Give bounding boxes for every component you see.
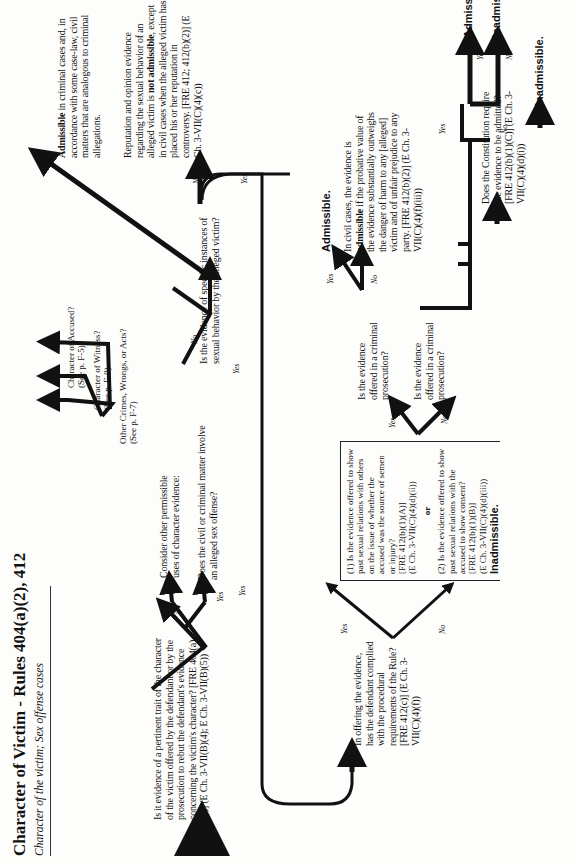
- outcome-admissible-criminal: Admissible in criminal cases and, in acc…: [56, 0, 102, 158]
- box-question-2: (2) Is the evidence offered to show past…: [436, 448, 488, 574]
- branch-label-yes: Yes: [438, 124, 447, 134]
- branch-label-yes: Yes: [216, 592, 225, 602]
- question-specific-instances: Is the evidence of specific instances of…: [198, 199, 221, 364]
- other-use-ref[interactable]: (See p. F-5): [76, 268, 86, 388]
- branch-label-yes: Yes: [340, 624, 349, 634]
- branch-label-yes: Yes: [476, 50, 485, 60]
- branch-label-no: No: [170, 605, 179, 614]
- branch-label-yes: Yes: [326, 274, 335, 284]
- other-use-crimes: Other Crimes, Wrongs, or Acts? (See p. F…: [118, 294, 139, 444]
- box-sexual-relations-questions: (1) Is the evidence offered to show past…: [340, 441, 500, 581]
- other-use-witness: Character of Witness? (See p. F-9): [92, 290, 113, 410]
- question-criminal-prosecution-2: Is the evidence offered in a criminal pr…: [412, 315, 447, 400]
- box-or: or: [422, 448, 432, 574]
- question-sex-offense: Does the civil or criminal matter involv…: [196, 420, 219, 580]
- other-use-label: Other Crimes, Wrongs, or Acts?: [118, 294, 128, 444]
- other-use-ref[interactable]: (See p. F-9): [102, 290, 112, 410]
- outcome-inadmissible: Inadmissible.: [490, 0, 502, 38]
- branch-label-yes: Yes: [240, 174, 249, 184]
- question-procedural: In offering the evidence, has the defend…: [352, 638, 422, 746]
- branch-label-yes: Yes: [232, 364, 241, 374]
- outcome-civil-cases-balancing: In civil cases, the evidence is admissib…: [342, 112, 423, 252]
- question-constitution: Does the Constitution require the eviden…: [480, 84, 526, 204]
- outcome-reputation-opinion: Reputation and opinion evidence regardin…: [122, 0, 203, 158]
- branch-label-no: No: [500, 125, 509, 134]
- branch-label-yes: Yes: [238, 586, 247, 596]
- branch-label-yes: Yes: [388, 418, 397, 428]
- branch-label-no: No: [438, 625, 447, 634]
- other-use-label: Character of Accused?: [66, 268, 76, 388]
- question-pertinent-trait: Is it evidence of a pertinent trait of t…: [152, 635, 210, 820]
- other-use-accused: Character of Accused? (See p. F-5): [66, 268, 87, 388]
- branch-label-no: No: [370, 275, 379, 284]
- other-use-ref[interactable]: (See p. F-7): [128, 294, 138, 444]
- outcome-inadmissible: Inadmissible.: [488, 504, 500, 574]
- branch-label-no: No: [505, 51, 514, 60]
- other-use-label: Character of Witness?: [92, 290, 102, 410]
- outcome-admissible: Admissible.: [320, 190, 332, 252]
- question-criminal-prosecution-1: Is the evidence offered in a criminal pr…: [356, 315, 391, 400]
- branch-label-no: No: [192, 175, 201, 184]
- outcome-inadmissible: Inadmissible.: [533, 36, 545, 106]
- branch-label-no: No: [440, 415, 449, 424]
- consider-other-uses: Consider other permissible uses of chara…: [158, 468, 181, 578]
- box-question-1: (1) Is the evidence offered to show past…: [345, 448, 418, 574]
- flowchart-page: Character of Victim - Rules 404(a)(2), 4…: [0, 0, 577, 864]
- outcome-admissible: Admissible.: [462, 0, 474, 38]
